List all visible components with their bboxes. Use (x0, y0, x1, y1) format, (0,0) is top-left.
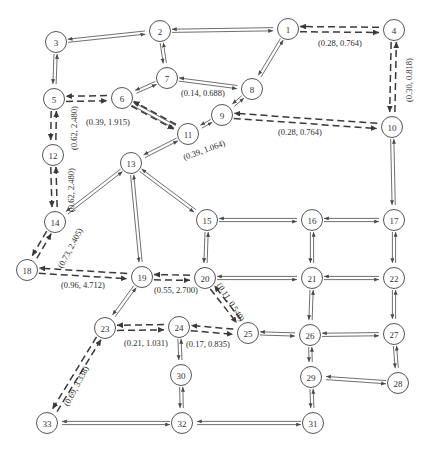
edge-3-5-reverse (56, 54, 57, 84)
dashed-edge-5-12-forward (51, 111, 52, 140)
edge-19-23-forward (113, 286, 134, 315)
dashed-edge-6-11-reverse (134, 101, 176, 124)
dashed-edge-4-10-reverse (395, 42, 396, 112)
dashed-edge-19-20-forward (154, 280, 190, 281)
graph-node-27[interactable]: 27 (384, 324, 405, 345)
graph-node-2[interactable]: 2 (150, 21, 171, 42)
graph-node-21[interactable]: 21 (302, 268, 323, 289)
edge-label-lbl-9-10: (0.28, 0.764) (278, 127, 322, 137)
graph-node-6[interactable]: 6 (112, 88, 133, 109)
graph-node-22[interactable]: 22 (384, 268, 405, 289)
graph-node-23[interactable]: 23 (95, 318, 116, 339)
graph-node-31[interactable]: 31 (303, 413, 324, 434)
dashed-edge-5-6-reverse (66, 96, 107, 97)
graph-node-7[interactable]: 7 (157, 68, 178, 89)
node-label-16: 16 (308, 216, 318, 226)
edge-6-11-forward (132, 105, 174, 128)
graph-node-29[interactable]: 29 (301, 367, 322, 388)
graph-node-26[interactable]: 26 (300, 325, 321, 346)
node-label-28: 28 (394, 379, 404, 389)
node-label-6: 6 (120, 94, 125, 104)
edge-24-30-forward (178, 339, 179, 360)
edge-19-23-reverse (115, 288, 136, 317)
graph-node-10[interactable]: 10 (382, 117, 403, 138)
dashed-edge-24-25-forward (191, 331, 233, 335)
edge-29-31-forward (310, 389, 311, 408)
edge-label-lbl-18-19: (0.96, 4.712) (61, 280, 105, 290)
graph-node-30[interactable]: 30 (171, 365, 192, 386)
graph-node-16[interactable]: 16 (302, 210, 323, 231)
graph-node-11[interactable]: 11 (178, 124, 199, 145)
solid-edges-layer (53, 28, 398, 425)
graph-node-9[interactable]: 9 (212, 105, 233, 126)
graph-node-33[interactable]: 33 (37, 413, 58, 434)
edge-26-27-reverse (322, 333, 379, 334)
node-label-9: 9 (220, 111, 225, 121)
graph-node-8[interactable]: 8 (242, 79, 263, 100)
node-label-14: 14 (51, 218, 61, 228)
graph-node-28[interactable]: 28 (388, 373, 409, 394)
node-label-12: 12 (49, 151, 58, 161)
edge-label-lbl-5-6: (0.39, 1.915) (86, 117, 130, 127)
edge-25-26-reverse (260, 332, 295, 333)
graph-node-3[interactable]: 3 (46, 32, 67, 53)
edge-26-27-forward (322, 336, 379, 337)
dashed-edge-1-4-reverse (300, 27, 379, 28)
node-label-15: 15 (203, 216, 213, 226)
node-label-10: 10 (388, 123, 398, 133)
dashed-edge-18-19-forward (39, 273, 127, 278)
edge-label-lbl-14-18: (0.73, 2.405) (55, 226, 85, 270)
edge-2-1-reverse (172, 28, 273, 30)
edge-15-20-reverse (207, 232, 208, 263)
dashed-edge-23-24-forward (117, 330, 164, 331)
edge-29-31-reverse (313, 389, 314, 408)
node-label-21: 21 (308, 274, 317, 284)
graph-node-12[interactable]: 12 (43, 145, 64, 166)
edge-27-28-reverse (397, 346, 399, 368)
node-label-19: 19 (138, 273, 148, 283)
edge-label-lbl-1-4: (0.28, 0.764) (318, 38, 362, 48)
dashed-edge-6-11-forward (131, 106, 173, 129)
graph-node-13[interactable]: 13 (121, 153, 142, 174)
node-label-24: 24 (175, 323, 185, 333)
edge-labels-layer: (0.28, 0.764)(0.30, 0.818)(0.14, 0.688)(… (55, 38, 414, 408)
edge-15-20-forward (204, 232, 205, 263)
graph-node-15[interactable]: 15 (197, 210, 218, 231)
dashed-edge-19-20-reverse (154, 275, 190, 276)
node-label-13: 13 (127, 159, 137, 169)
edge-13-15-forward (140, 171, 194, 212)
edge-2-1-forward (172, 31, 273, 33)
dashed-edge-12-14-forward (51, 167, 52, 207)
graph-node-17[interactable]: 17 (384, 210, 405, 231)
graph-canvas: 1234567891011121314151617181920212223242… (0, 0, 426, 450)
graph-node-14[interactable]: 14 (45, 212, 66, 233)
dashed-edge-1-4-forward (300, 32, 379, 33)
edge-label-lbl-7-8: (0.14, 0.688) (181, 88, 225, 98)
graph-node-32[interactable]: 32 (172, 413, 193, 434)
dashed-edge-23-24-reverse (117, 325, 164, 326)
edge-21-26-reverse (312, 290, 313, 320)
graph-node-4[interactable]: 4 (384, 20, 405, 41)
graph-node-18[interactable]: 18 (17, 260, 38, 281)
graph-node-25[interactable]: 25 (238, 323, 259, 344)
dashed-edge-9-10-reverse (234, 113, 377, 123)
node-label-29: 29 (307, 373, 317, 383)
node-label-26: 26 (306, 331, 316, 341)
edge-10-17-forward (391, 139, 392, 205)
graph-node-5[interactable]: 5 (44, 89, 65, 110)
graph-node-24[interactable]: 24 (169, 317, 190, 338)
graph-node-19[interactable]: 19 (132, 267, 153, 288)
node-label-17: 17 (390, 216, 400, 226)
node-label-18: 18 (23, 266, 33, 276)
edge-21-26-forward (309, 290, 310, 320)
graph-node-1[interactable]: 1 (278, 19, 299, 40)
dashed-edge-12-14-reverse (56, 167, 57, 207)
edge-3-5-forward (53, 54, 54, 84)
node-label-27: 27 (390, 330, 400, 340)
edge-2-7-forward (160, 43, 163, 63)
edge-13-14-reverse (68, 172, 123, 214)
edge-1-8-forward (258, 38, 280, 75)
dashed-edge-24-25-reverse (191, 325, 233, 329)
edge-27-28-forward (393, 346, 395, 368)
edge-label-lbl-12-14: (0.62, 2.480) (66, 168, 76, 212)
